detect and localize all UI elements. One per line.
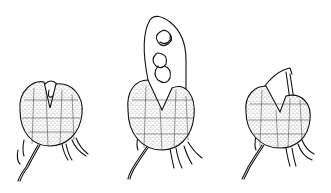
specimen-left xyxy=(17,81,88,181)
illustration xyxy=(0,0,331,193)
figure-drawing xyxy=(0,0,331,193)
specimen-right xyxy=(242,68,314,179)
specimen-middle xyxy=(128,16,202,179)
